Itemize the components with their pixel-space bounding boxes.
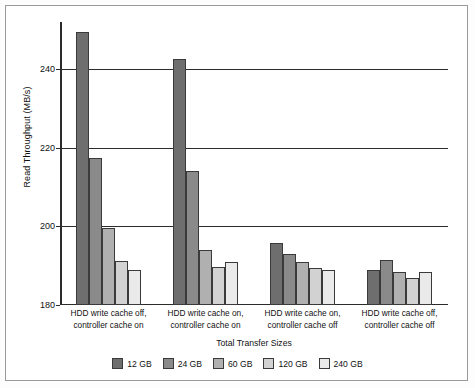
bar <box>283 254 296 305</box>
bar-group <box>60 22 157 305</box>
x-tick-label-line: controller cache on <box>157 320 254 332</box>
x-tick-label-line: controller cache off <box>351 320 448 332</box>
bar <box>89 158 102 305</box>
legend-label: 60 GB <box>228 359 252 369</box>
bar <box>128 270 141 305</box>
bar-group <box>351 22 448 305</box>
bar <box>212 267 225 305</box>
legend-swatch <box>163 358 174 369</box>
x-axis-ticks: HDD write cache off,controller cache onH… <box>60 308 448 334</box>
bar <box>322 270 335 305</box>
x-tick-label-line: HDD write cache off, <box>60 308 157 320</box>
bar-group <box>157 22 254 305</box>
bar <box>270 243 283 305</box>
x-tick-label: HDD write cache off,controller cache off <box>351 308 448 331</box>
x-tick-label: HDD write cache on,controller cache off <box>254 308 351 331</box>
legend-label: 12 GB <box>127 359 151 369</box>
bar <box>186 171 199 305</box>
y-tick-label: 200 <box>40 221 55 231</box>
legend-label: 24 GB <box>178 359 202 369</box>
x-tick-label-line: controller cache on <box>60 320 157 332</box>
x-tick-label-line: HDD write cache on, <box>254 308 351 320</box>
x-tick-label-line: controller cache off <box>254 320 351 332</box>
x-tick-label-line: HDD write cache on, <box>157 308 254 320</box>
bar <box>419 272 432 305</box>
legend-item: 240 GB <box>319 358 363 369</box>
bar <box>173 59 186 305</box>
bar-group <box>254 22 351 305</box>
bar <box>296 262 309 305</box>
y-axis-title: Read Throughput (MB/s) <box>22 62 32 212</box>
y-tick-label: 180 <box>40 300 55 310</box>
chart-legend: 12 GB24 GB60 GB120 GB240 GB <box>0 358 475 369</box>
plot-area: 180200220240 <box>60 22 448 305</box>
legend-swatch <box>263 358 274 369</box>
legend-label: 240 GB <box>334 359 363 369</box>
legend-swatch <box>112 358 123 369</box>
bars-layer <box>60 22 448 305</box>
bar <box>393 272 406 305</box>
legend-label: 120 GB <box>278 359 307 369</box>
legend-swatch <box>213 358 224 369</box>
y-tick-label: 220 <box>40 143 55 153</box>
x-tick-label: HDD write cache on,controller cache on <box>157 308 254 331</box>
bar <box>76 32 89 305</box>
legend-item: 12 GB <box>112 358 151 369</box>
legend-item: 120 GB <box>263 358 307 369</box>
y-tick-label: 240 <box>40 64 55 74</box>
bar <box>309 268 322 305</box>
legend-swatch <box>319 358 330 369</box>
bar <box>115 261 128 305</box>
x-axis-title: Total Transfer Sizes <box>60 338 448 348</box>
bar <box>102 228 115 305</box>
bar <box>380 260 393 305</box>
x-tick-label: HDD write cache off,controller cache on <box>60 308 157 331</box>
x-tick-label-line: HDD write cache off, <box>351 308 448 320</box>
legend-item: 24 GB <box>163 358 202 369</box>
bar <box>199 250 212 305</box>
y-tick-mark <box>56 305 60 306</box>
chart-figure: Read Throughput (MB/s) 180200220240 HDD … <box>0 0 475 388</box>
bar <box>225 262 238 305</box>
bar <box>367 270 380 305</box>
bar <box>406 278 419 306</box>
legend-item: 60 GB <box>213 358 252 369</box>
